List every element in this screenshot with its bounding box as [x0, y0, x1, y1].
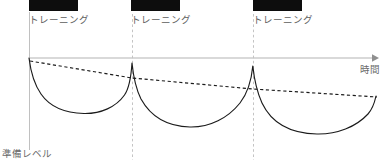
readiness-axis-label: 準備レベル — [2, 148, 53, 160]
time-axis-label: 時間 — [360, 64, 380, 76]
training-marker-1: トレーニング — [29, 0, 90, 26]
training-bar-1 — [29, 0, 78, 11]
training-bar-3 — [253, 0, 302, 11]
time-axis-arrow-icon — [372, 54, 379, 62]
training-label-2: トレーニング — [131, 14, 192, 26]
training-bar-2 — [131, 0, 180, 11]
training-marker-3: トレーニング — [253, 0, 314, 26]
fatigue-recovery-curve — [29, 58, 376, 134]
training-label-1: トレーニング — [29, 14, 90, 26]
training-marker-2: トレーニング — [131, 0, 192, 26]
declining-trend-line — [30, 61, 377, 97]
training-readiness-diagram: トレーニング トレーニング トレーニング 時間 準備レベル — [0, 0, 386, 165]
training-label-3: トレーニング — [253, 14, 314, 26]
